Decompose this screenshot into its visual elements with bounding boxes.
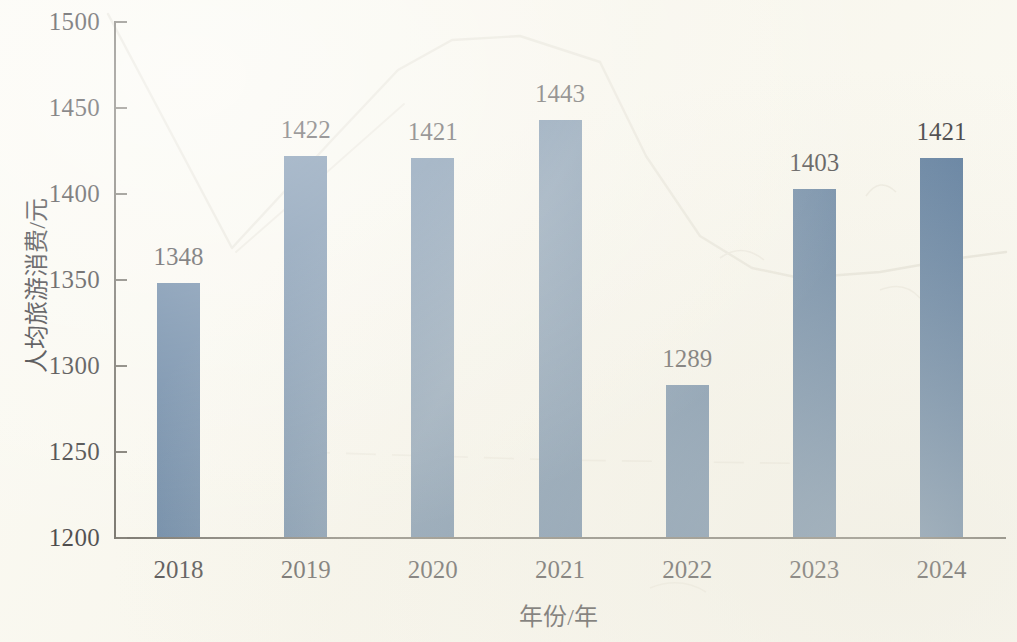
bar-value-label: 1443: [535, 80, 585, 108]
bar[interactable]: [793, 189, 836, 538]
x-axis-tick-label: 2024: [916, 556, 966, 584]
bar-value-label: 1421: [916, 118, 966, 146]
x-axis-tick-label: 2018: [154, 556, 204, 584]
x-axis-tick-label: 2022: [662, 556, 712, 584]
y-axis-tick: [116, 451, 127, 453]
bar[interactable]: [157, 283, 200, 538]
bar-value-label: 1422: [281, 116, 331, 144]
y-axis-tick: [116, 279, 127, 281]
bar[interactable]: [539, 120, 582, 538]
x-axis-tick-label: 2021: [535, 556, 585, 584]
x-axis-title-text: 年份/年: [519, 604, 598, 630]
y-axis-title: 人均旅游消费/元: [17, 76, 52, 496]
x-axis-tick-label: 2023: [789, 556, 839, 584]
bar-chart: 1500145014001350130012501200 13481422142…: [0, 0, 1017, 642]
x-axis-tick-label: 2020: [408, 556, 458, 584]
bar[interactable]: [666, 385, 709, 538]
bar-value-label: 1403: [789, 149, 839, 177]
y-axis-tick-label: 1500: [14, 8, 100, 36]
y-axis-tick: [116, 107, 127, 109]
y-axis-tick: [116, 365, 127, 367]
y-axis-tick: [116, 21, 127, 23]
bar-value-label: 1289: [662, 345, 712, 373]
bar[interactable]: [411, 158, 454, 538]
y-axis-tick: [116, 193, 127, 195]
y-axis-tick-label: 1200: [14, 524, 100, 552]
x-axis-line: [114, 537, 1006, 539]
y-axis-tick: [116, 537, 127, 539]
bar[interactable]: [284, 156, 327, 538]
scan-bleedthrough-artifact: [0, 0, 1017, 642]
bar[interactable]: [920, 158, 963, 538]
x-axis-tick-label: 2019: [281, 556, 331, 584]
x-axis-title: 年份/年: [0, 597, 1017, 632]
bar-value-label: 1421: [408, 118, 458, 146]
bar-value-label: 1348: [154, 243, 204, 271]
